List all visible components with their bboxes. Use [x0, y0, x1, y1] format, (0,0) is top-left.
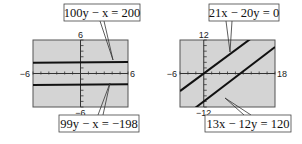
series-line-2 [33, 84, 128, 85]
equation-label-bottom: 13x − 12y = 120 [207, 117, 290, 131]
chart-figure: −666−6100y − x = 20099y − x = −198−61812… [0, 0, 302, 144]
x-min-label: −6 [167, 69, 177, 79]
equation-label-top: 21x − 20y = 0 [209, 6, 279, 20]
x-max-label: 18 [277, 69, 287, 79]
x-max-label: 6 [130, 69, 135, 79]
chart-panel-1: −666−6100y − x = 20099y − x = −198 [20, 4, 141, 132]
x-min-label: −6 [20, 69, 30, 79]
y-max-label: 12 [199, 30, 209, 40]
chart-panel-2: −61812−1221x − 20y = 013x − 12y = 120 [167, 4, 291, 132]
y-max-label: 6 [78, 30, 83, 40]
series-line-1 [33, 62, 128, 63]
equation-label-top: 100y − x = 200 [64, 6, 141, 20]
equation-label-bottom: 99y − x = −198 [60, 117, 137, 131]
